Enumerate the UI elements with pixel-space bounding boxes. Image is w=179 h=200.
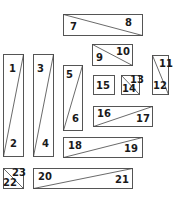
piece-11-12: 1112 <box>153 56 173 95</box>
triangle-label-19: 19 <box>124 143 138 154</box>
piece-18-19: 1819 <box>64 138 143 158</box>
triangle-label-9: 9 <box>96 52 103 63</box>
cutting-diagram: 1234785691011121513141617181923222021 <box>0 0 179 200</box>
triangle-label-18: 18 <box>68 140 82 151</box>
piece-16-17: 1617 <box>94 107 153 127</box>
triangle-label-6: 6 <box>72 113 79 124</box>
triangle-label-21: 21 <box>115 174 129 185</box>
triangle-label-1: 1 <box>9 63 16 74</box>
triangle-label-2: 2 <box>10 138 17 149</box>
triangle-label-5: 5 <box>66 69 73 80</box>
piece-13-14: 1314 <box>122 74 144 95</box>
triangle-label-11: 11 <box>159 58 173 69</box>
triangle-label-17: 17 <box>136 113 150 124</box>
triangle-label-15: 15 <box>96 80 110 91</box>
triangle-label-10: 10 <box>116 46 130 57</box>
piece-1-2: 12 <box>4 55 24 157</box>
piece-9-10: 910 <box>93 45 133 66</box>
piece-7-8: 78 <box>64 15 143 36</box>
triangle-label-7: 7 <box>70 21 77 32</box>
piece-15: 15 <box>94 76 115 95</box>
piece-3-4: 34 <box>34 55 54 157</box>
triangle-label-16: 16 <box>97 108 111 119</box>
triangle-label-12: 12 <box>153 80 167 91</box>
piece-23-22: 2322 <box>3 167 26 189</box>
triangle-label-22: 22 <box>3 177 17 188</box>
triangle-label-8: 8 <box>125 17 132 28</box>
triangle-label-4: 4 <box>42 138 49 149</box>
triangle-label-3: 3 <box>37 63 44 74</box>
triangle-label-20: 20 <box>38 171 52 182</box>
triangle-label-14: 14 <box>122 83 136 94</box>
piece-5-6: 56 <box>64 66 83 131</box>
piece-20-21: 2021 <box>34 169 133 189</box>
